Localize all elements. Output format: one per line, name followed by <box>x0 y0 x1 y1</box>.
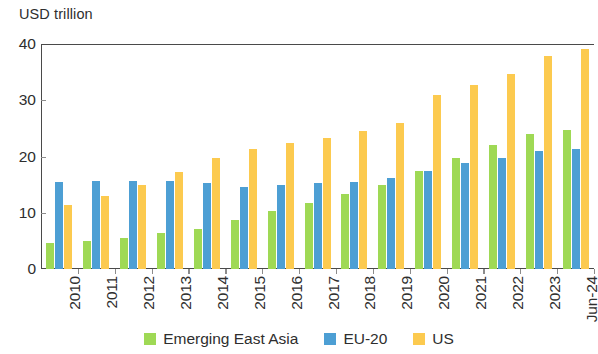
bar <box>489 145 497 269</box>
bar <box>203 183 211 269</box>
bar-group <box>341 44 367 269</box>
x-axis-tick-mark <box>520 269 521 274</box>
bar <box>572 149 580 269</box>
bar <box>138 185 146 269</box>
bar <box>452 158 460 269</box>
legend-label: Emerging East Asia <box>163 330 298 348</box>
bar <box>535 151 543 269</box>
bar <box>581 49 589 270</box>
x-axis-tick-mark <box>557 269 558 274</box>
bar-group <box>268 44 294 269</box>
x-axis-tick-mark <box>262 269 263 274</box>
bar <box>277 185 285 269</box>
bar <box>83 241 91 269</box>
bar <box>240 187 248 269</box>
bar <box>212 158 220 269</box>
bar <box>359 131 367 269</box>
bar <box>323 138 331 269</box>
bar-group <box>194 44 220 269</box>
x-axis-tick-label: 2023 <box>546 276 564 310</box>
bar <box>526 134 534 269</box>
bar <box>286 143 294 269</box>
x-axis-tick-mark <box>336 269 337 274</box>
x-axis-tick-label: 2013 <box>177 276 195 310</box>
bar <box>194 229 202 270</box>
bar <box>350 182 358 269</box>
bar <box>55 182 63 269</box>
bar-group <box>305 44 331 269</box>
bar-group <box>46 44 72 269</box>
bar <box>341 194 349 269</box>
x-axis-tick-mark <box>152 269 153 274</box>
bar <box>249 149 257 269</box>
legend-swatch-icon <box>144 333 156 345</box>
bar <box>120 238 128 270</box>
bar <box>166 181 174 269</box>
legend-label: US <box>432 330 454 348</box>
bar-group <box>452 44 478 269</box>
bar-group <box>489 44 515 269</box>
x-axis-tick-mark <box>78 269 79 274</box>
x-axis-tick-mark <box>373 269 374 274</box>
x-axis-tick-label: 2012 <box>140 276 158 310</box>
x-axis-tick-label: 2015 <box>251 276 269 310</box>
bar-group <box>563 44 589 269</box>
y-axis-tick-label: 0 <box>27 260 36 278</box>
legend-item[interactable]: Emerging East Asia <box>144 330 298 348</box>
x-axis-tick-label: 2022 <box>509 276 527 310</box>
x-axis-tick-mark <box>410 269 411 274</box>
bar-group <box>231 44 257 269</box>
bar <box>92 181 100 269</box>
legend-item[interactable]: US <box>413 330 454 348</box>
y-axis-tick-label: 20 <box>19 148 36 166</box>
bar <box>461 163 469 269</box>
bar <box>470 85 478 269</box>
x-axis-tick-label: 2010 <box>66 276 84 310</box>
bar <box>415 171 423 269</box>
bar-group <box>83 44 109 269</box>
x-axis-tick-label: 2016 <box>288 276 306 310</box>
bar <box>396 123 404 269</box>
bar <box>507 74 515 269</box>
bar-group <box>157 44 183 269</box>
bar <box>175 172 183 269</box>
x-axis-tick-label: Jun-24 <box>583 276 598 322</box>
bar <box>268 211 276 269</box>
bar <box>563 130 571 270</box>
x-axis-tick-mark <box>299 269 300 274</box>
legend-item[interactable]: EU-20 <box>324 330 387 348</box>
bar <box>498 158 506 269</box>
legend-label: EU-20 <box>343 330 387 348</box>
x-axis-tick-label: 2014 <box>214 276 232 310</box>
x-axis-tick-mark <box>188 269 189 274</box>
y-axis-tick-labels: 010203040 <box>0 0 36 354</box>
x-axis-tick-mark <box>483 269 484 274</box>
bar-group <box>378 44 404 269</box>
legend-swatch-icon <box>324 333 336 345</box>
bar-chart: USD trillion 010203040 20102011201220132… <box>0 0 598 354</box>
bar <box>378 185 386 269</box>
bar <box>64 205 72 269</box>
x-axis-tick-mark <box>447 269 448 274</box>
bar <box>433 95 441 269</box>
x-axis-tick-label: 2018 <box>361 276 379 310</box>
bar <box>314 183 322 269</box>
x-axis-tick-label: 2020 <box>435 276 453 310</box>
bar <box>129 181 137 269</box>
bar <box>231 220 239 269</box>
y-axis-tick-label: 40 <box>19 35 36 53</box>
bars-layer <box>41 44 594 269</box>
bar <box>46 243 54 269</box>
x-axis-tick-mark <box>225 269 226 274</box>
legend-swatch-icon <box>413 333 425 345</box>
bar <box>544 56 552 269</box>
bar-group <box>526 44 552 269</box>
bar-group <box>415 44 441 269</box>
bar <box>157 233 165 269</box>
bar <box>101 196 109 269</box>
bar <box>387 178 395 269</box>
y-axis-tick-label: 30 <box>19 91 36 109</box>
x-axis-tick-mark <box>594 269 595 274</box>
x-axis-tick-label: 2021 <box>472 276 490 310</box>
y-axis-tick-label: 10 <box>19 204 36 222</box>
